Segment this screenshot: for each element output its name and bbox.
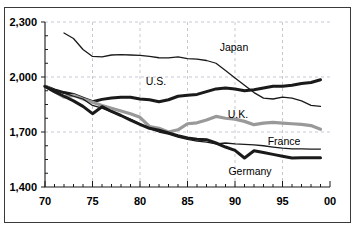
series-label-japan: Japan [220,41,249,53]
x-tick-label: 80 [134,195,146,207]
y-tick-label: 2,000 [9,71,37,83]
series-label-uk: U.K. [228,108,248,120]
x-tick-label: 85 [181,195,193,207]
x-tick-label: 95 [276,195,288,207]
series-label-us: U.S. [146,75,166,87]
series-label-germany: Germany [228,165,272,177]
y-axis-tick-labels: 1,4001,7002,0002,300 [9,16,37,193]
tick-marks [41,22,330,187]
y-tick-label: 2,300 [9,16,37,28]
x-tick-label: 75 [86,195,98,207]
x-axis-tick-labels: 70758085909500 [39,195,336,207]
x-tick-label: 70 [39,195,51,207]
y-tick-label: 1,700 [9,126,37,138]
series-label-france: France [268,135,301,147]
plot-area: 1,4001,7002,0002,300 70758085909500 Japa… [0,0,359,230]
x-tick-label: 90 [229,195,241,207]
y-tick-label: 1,400 [9,181,37,193]
line-chart: 1,4001,7002,0002,300 70758085909500 Japa… [0,0,359,230]
gridlines [45,22,330,187]
x-tick-label: 00 [324,195,336,207]
chart-figure: 1,4001,7002,0002,300 70758085909500 Japa… [0,0,359,230]
